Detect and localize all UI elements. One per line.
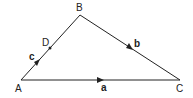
point-d-label: D xyxy=(42,37,49,48)
diagram-svg: A B C D c b a xyxy=(0,0,193,98)
vertex-a-label: A xyxy=(15,83,22,94)
vector-a-label: a xyxy=(101,82,107,93)
vertex-c-label: C xyxy=(176,83,183,94)
vector-b-label: b xyxy=(134,38,140,49)
vertex-b-label: B xyxy=(76,2,83,13)
arrow-b-icon xyxy=(126,43,133,50)
triangle-diagram: A B C D c b a xyxy=(0,0,193,98)
vector-c-label: c xyxy=(29,51,35,62)
